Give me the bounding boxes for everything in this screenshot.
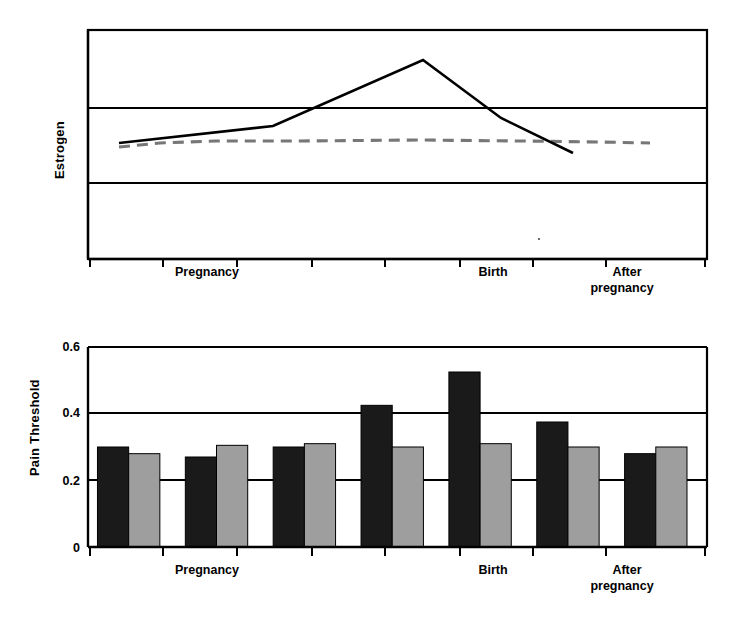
- estrogen-plot-area: [0, 0, 746, 285]
- bar-dark-4: [361, 405, 392, 547]
- estrogen-xlabel-birth: Birth: [443, 265, 543, 280]
- bar-light-1: [129, 454, 160, 547]
- scan-speck: [538, 238, 540, 240]
- estrogen-xlabel-pregnancy: Pregnancy: [137, 265, 277, 280]
- bar-dark-7: [625, 454, 656, 547]
- estrogen-xlabel-pregnancy-2: pregnancy: [572, 281, 672, 296]
- bar-dark-3: [273, 447, 304, 547]
- pain-xlabel-after: After: [577, 563, 677, 578]
- pain-xlabel-birth: Birth: [443, 563, 543, 578]
- estrogen-plot-frame: [88, 30, 707, 259]
- estrogen-line-chart: Estrogen: [0, 0, 746, 310]
- bar-light-6: [568, 447, 599, 547]
- bar-light-5: [480, 444, 511, 547]
- bar-light-4: [392, 447, 423, 547]
- pain-x-ticks: [90, 547, 705, 556]
- pain-threshold-bar-chart: Pain Threshold 0.6 0.4 0.2 0: [0, 318, 746, 633]
- estrogen-xlabel-after: After: [577, 265, 677, 280]
- bar-light-7: [656, 447, 687, 547]
- figure-root: Estrogen: [0, 0, 746, 633]
- bar-dark-6: [537, 422, 568, 547]
- pain-plot-area: [0, 318, 746, 568]
- pain-xlabel-pregnancy: Pregnancy: [137, 563, 277, 578]
- bar-dark-1: [97, 447, 128, 547]
- bar-dark-5: [449, 372, 480, 547]
- pain-bar-group: [97, 372, 687, 547]
- bar-light-3: [304, 444, 335, 547]
- bar-light-2: [217, 445, 248, 547]
- pain-xlabel-pregnancy-2: pregnancy: [572, 579, 672, 594]
- bar-dark-2: [185, 457, 216, 547]
